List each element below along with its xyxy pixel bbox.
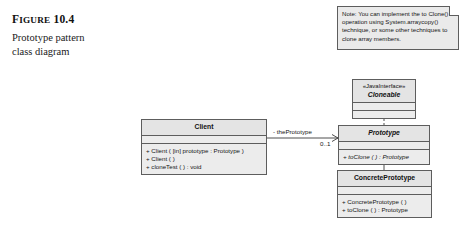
class-name-concrete-prototype: ConcretePrototype [354,174,415,181]
attributes-compartment-prototype [339,142,429,149]
class-header-cloneable: «JavaInterface» Cloneable [353,80,415,102]
class-header-concrete-prototype: ConcretePrototype [338,171,431,186]
figure-caption-line-1: Prototype pattern [12,31,132,45]
uml-note: Note: You can implement the to Clone() o… [337,6,459,50]
class-box-prototype[interactable]: Prototype + toClone ( ) : Prototype [338,125,430,165]
association-multiplicity-label: 0..1 [320,140,330,147]
figure-caption-text: Prototype pattern class diagram [12,31,132,58]
operations-compartment-prototype: + toClone ( ) : Prototype [339,150,429,164]
class-box-cloneable[interactable]: «JavaInterface» Cloneable [352,79,416,119]
association-role-label: - thePrototype [273,128,312,135]
figure-label-rest: IGURE [19,15,50,25]
class-name-client: Client [195,123,214,130]
operation-row: + cloneTest ( ) : void [146,163,262,171]
figure-caption: FIGURE 10.4 Prototype pattern class diag… [12,13,132,58]
attributes-compartment-concrete-prototype [338,187,431,194]
class-box-client[interactable]: Client + Client ( [in] prototype : Proto… [141,119,267,175]
operation-row: + toClone ( ) : Prototype [342,206,427,214]
class-header-prototype: Prototype [339,126,429,141]
class-box-concrete-prototype[interactable]: ConcretePrototype + ConcretePrototype ( … [337,170,432,218]
operations-compartment-client: + Client ( [in] prototype : Prototype ) … [142,144,266,175]
operation-row: + ConcretePrototype ( ) [342,198,427,206]
operations-compartment-cloneable [353,111,415,118]
attributes-compartment-client [142,136,266,143]
figure-number: 10.4 [53,13,74,25]
operation-row: + Client ( [in] prototype : Prototype ) [146,147,262,155]
class-name-prototype: Prototype [368,129,400,136]
class-stereotype-cloneable: «JavaInterface» [355,83,413,91]
figure-caption-line-2: class diagram [12,45,132,59]
figure-label: FIGURE 10.4 [12,13,132,25]
operation-row: + Client ( ) [146,155,262,163]
class-name-cloneable: Cloneable [368,91,400,98]
note-text: Note: You can implement the to Clone() o… [338,7,458,43]
attributes-compartment-cloneable [353,103,415,110]
class-header-client: Client [142,120,266,135]
operation-row: + toClone ( ) : Prototype [343,153,425,161]
operations-compartment-concrete-prototype: + ConcretePrototype ( ) + toClone ( ) : … [338,195,431,217]
